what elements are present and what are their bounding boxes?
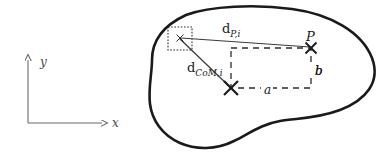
marker-center-of-mass [224,81,238,95]
diagram-svg: x y dP,i [0,0,389,155]
label-b-backdrop [307,64,313,78]
distance-line-to-P [181,38,310,47]
label-d-P-subscript: P,i [229,29,240,39]
label-side-b-front: b [315,64,323,78]
offset-rectangle [231,48,311,88]
figure-canvas: x y dP,i [0,0,389,155]
label-side-a-front: a [264,83,271,97]
label-d-P-main: d [222,21,230,36]
coordinate-frame: x y [28,55,119,130]
label-d-com-subscript: CoM,i [195,68,222,78]
irregular-region-outline [149,6,374,148]
label-d-com-main: d [187,60,195,75]
label-point-P: P [305,29,315,44]
label-distance-to-point-P: dP,i [222,21,240,39]
x-axis-label: x [112,116,119,130]
marker-point-P [306,43,317,54]
y-axis-label: y [39,55,47,69]
